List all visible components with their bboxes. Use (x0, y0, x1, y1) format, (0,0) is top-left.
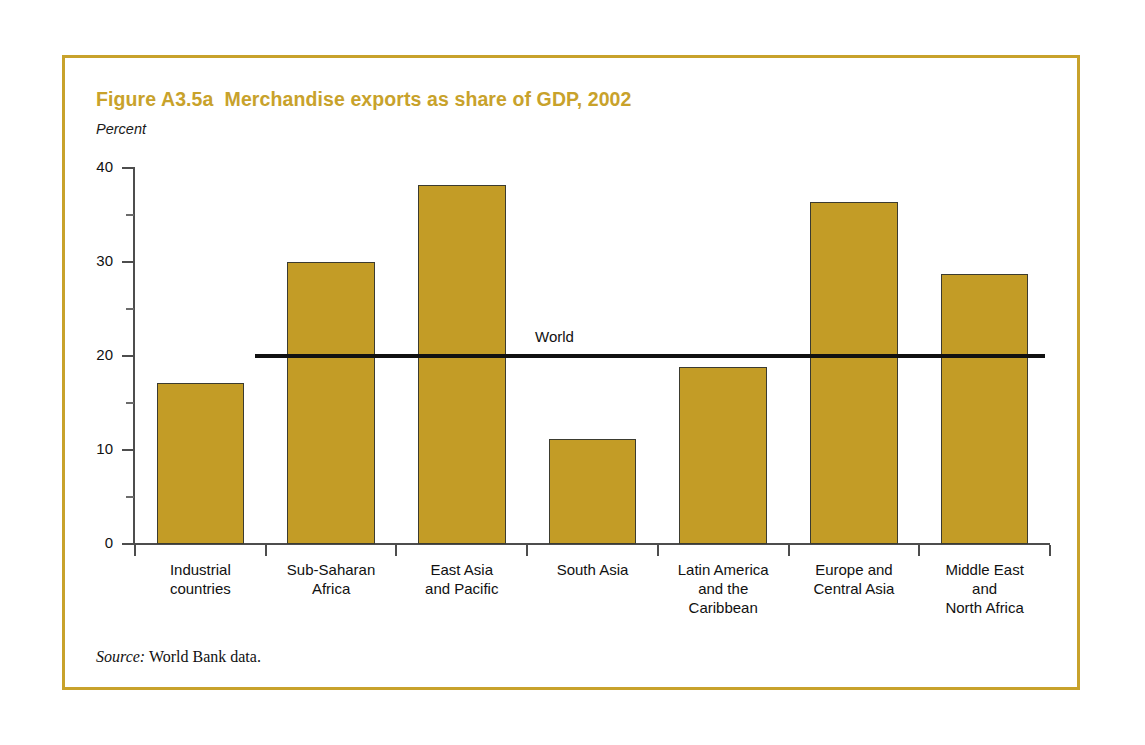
x-axis-category-label: South Asia (527, 560, 658, 579)
x-axis-tick (918, 545, 920, 556)
chart-plot-area: 010203040 World Industrial countriesSub-… (65, 58, 1077, 687)
x-axis-category-label: East Asia and Pacific (396, 560, 527, 598)
x-axis-tick (134, 545, 136, 556)
x-axis-tick (1049, 545, 1051, 556)
source-note: Source: World Bank data. (96, 648, 261, 666)
y-axis-minor-tick (126, 402, 134, 404)
bar (157, 383, 245, 544)
bar (549, 439, 637, 544)
x-axis-tick (265, 545, 267, 556)
world-reference-line (255, 354, 1045, 358)
y-axis-tick-label: 10 (67, 440, 113, 457)
y-axis-tick-label: 0 (67, 534, 113, 551)
y-axis-tick-label: 20 (67, 346, 113, 363)
y-axis-minor-tick (126, 496, 134, 498)
x-axis-tick (526, 545, 528, 556)
bar (810, 202, 898, 544)
x-axis-category-label: Industrial countries (135, 560, 266, 598)
x-axis-tick (395, 545, 397, 556)
x-axis-category-label: Europe and Central Asia (789, 560, 920, 598)
y-axis-tick (122, 167, 134, 169)
y-axis-minor-tick (126, 308, 134, 310)
bar (679, 367, 767, 544)
bar (287, 262, 375, 544)
y-axis-tick (122, 261, 134, 263)
y-axis-minor-tick (126, 214, 134, 216)
world-reference-label: World (535, 328, 574, 345)
y-axis-tick (122, 449, 134, 451)
x-axis-tick (657, 545, 659, 556)
bar (418, 185, 506, 544)
bar (941, 274, 1029, 544)
figure-container: Figure A3.5a Merchandise exports as shar… (62, 55, 1080, 690)
y-axis-tick-label: 30 (67, 252, 113, 269)
x-axis-tick (788, 545, 790, 556)
x-axis-category-label: Sub-Saharan Africa (266, 560, 397, 598)
y-axis-tick-label: 40 (67, 158, 113, 175)
source-text: World Bank data. (145, 648, 261, 665)
source-label: Source: (96, 648, 145, 665)
x-axis-category-label: Latin America and the Caribbean (658, 560, 789, 617)
y-axis-tick (122, 355, 134, 357)
x-axis-category-label: Middle East and North Africa (919, 560, 1050, 617)
y-axis-tick (122, 543, 134, 545)
